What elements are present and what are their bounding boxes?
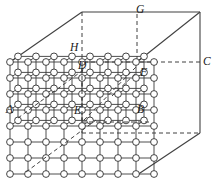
lattice-atom-node [151,75,158,82]
lattice-diagram-svg [0,0,216,187]
lattice-atom-node [7,75,14,82]
lattice-atom-node [43,171,50,178]
lattice-atom-node [151,123,158,130]
lattice-atom-node [133,91,140,98]
lattice-atom-node [87,85,94,92]
lattice-atom-node [123,85,130,92]
lattice-atom-node [115,123,122,130]
lattice-atom-node [133,171,140,178]
lattice-atom-node [7,91,14,98]
lattice-atom-node [33,117,40,124]
lattice-atom-node [25,155,32,162]
lattice-atom-node [97,139,104,146]
lattice-atom-node [61,91,68,98]
lattice-atom-node [123,53,130,60]
vertex-label-B: B [137,104,144,116]
lattice-atom-node [123,117,130,124]
lattice-atom-node [25,123,32,130]
lattice-atom-node [7,171,14,178]
vertex-label-C: C [203,56,211,68]
lattice-atom-node [69,85,76,92]
lattice-atom-node [43,139,50,146]
lattice-atom-node [69,69,76,76]
lattice-atom-node [33,53,40,60]
lattice-atom-node [33,85,40,92]
lattice-atom-node [97,75,104,82]
lattice-atom-node [15,101,22,108]
vertex-label-G: G [136,4,144,16]
lattice-atom-node [51,117,58,124]
lattice-atom-node [61,59,68,66]
lattice-atom-node [15,53,22,60]
lattice-atom-node [151,107,158,114]
lattice-atom-node [7,59,14,66]
lattice-atom-node [115,59,122,66]
lattice-atom-node [7,139,14,146]
lattice-atom-node [51,69,58,76]
lattice-atom-node [87,69,94,76]
lattice-atom-node [25,139,32,146]
lattice-atom-node [43,123,50,130]
lattice-atom-node [105,117,112,124]
lattice-atom-node [141,53,148,60]
lattice-atom-node [151,91,158,98]
lattice-atom-node [87,101,94,108]
lattice-atom-node [97,91,104,98]
vertex-label-F: F [140,67,147,79]
lattice-atom-node [115,171,122,178]
lattice-atom-node [105,85,112,92]
lattice-atom-node [25,91,32,98]
lattice-atom-node [141,85,148,92]
lattice-atom-node [151,155,158,162]
lattice-atom-node [69,117,76,124]
lattice-figure: A B C D E F G H [0,0,216,187]
cube-visible-edges [10,12,200,175]
lattice-atom-node [25,59,32,66]
lattice-atom-node [151,59,158,66]
lattice-atom-node [61,155,68,162]
lattice-atom-node [105,53,112,60]
lattice-atom-node [87,53,94,60]
lattice-atom-node [15,85,22,92]
lattice-atom-node [61,107,68,114]
lattice-atom-node [97,155,104,162]
lattice-atom-node [115,91,122,98]
lattice-atom-node [15,117,22,124]
lattice-atom-node [87,117,94,124]
lattice-atom-node [7,155,14,162]
lattice-atom-node [51,85,58,92]
lattice-atom-node [133,139,140,146]
lattice-atom-node [79,139,86,146]
vertex-label-A: A [6,104,13,116]
lattice-atom-node [43,107,50,114]
lattice-atom-node [43,155,50,162]
lattice-atom-node [151,171,158,178]
lattice-atom-node [133,123,140,130]
vertex-label-D: D [78,60,86,72]
lattice-atom-node [61,171,68,178]
lattice-atom-node [33,69,40,76]
lattice-atom-node [133,59,140,66]
lattice-atom-node [97,123,104,130]
lattice-atom-node [51,101,58,108]
lattice-atom-node [69,53,76,60]
lattice-atom-node [43,59,50,66]
lattice-atom-node [97,171,104,178]
lattice-atom-node [115,139,122,146]
lattice-atom-node [115,75,122,82]
lattice-atom-node [43,91,50,98]
lattice-atom-node [79,155,86,162]
lattice-atom-node [105,101,112,108]
lattice-atom-node [123,101,130,108]
lattice-atom-node [61,75,68,82]
lattice-atom-node [79,171,86,178]
lattice-atom-node [7,123,14,130]
lattice-atom-node [115,107,122,114]
vertex-label-E: E [74,105,81,117]
lattice-atom-node [115,155,122,162]
lattice-atom-node [25,75,32,82]
lattice-atom-node [133,155,140,162]
lattice-atom-node [61,123,68,130]
cube-edge-right-bottom-diagonal [137,133,200,175]
lattice-atom-node [97,59,104,66]
